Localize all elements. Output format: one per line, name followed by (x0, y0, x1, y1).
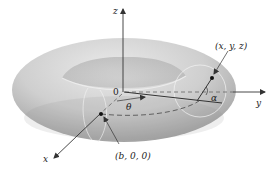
torus-diagram: z y x 0 θ α (x, y, z) (b, 0, 0) (0, 0, 275, 171)
point-b00-label: (b, 0, 0) (115, 151, 151, 161)
theta-label: θ (126, 102, 132, 112)
torus (12, 38, 236, 142)
x-axis-label: x (43, 154, 48, 164)
alpha-label: α (211, 93, 217, 103)
origin-label: 0 (113, 87, 119, 97)
torus-shadow (24, 96, 224, 140)
point-xyz-label: (x, y, z) (215, 41, 248, 51)
point-xyz (210, 76, 214, 80)
point-b00 (99, 112, 103, 116)
y-axis-label: y (255, 98, 262, 108)
z-axis-label: z (112, 6, 118, 16)
